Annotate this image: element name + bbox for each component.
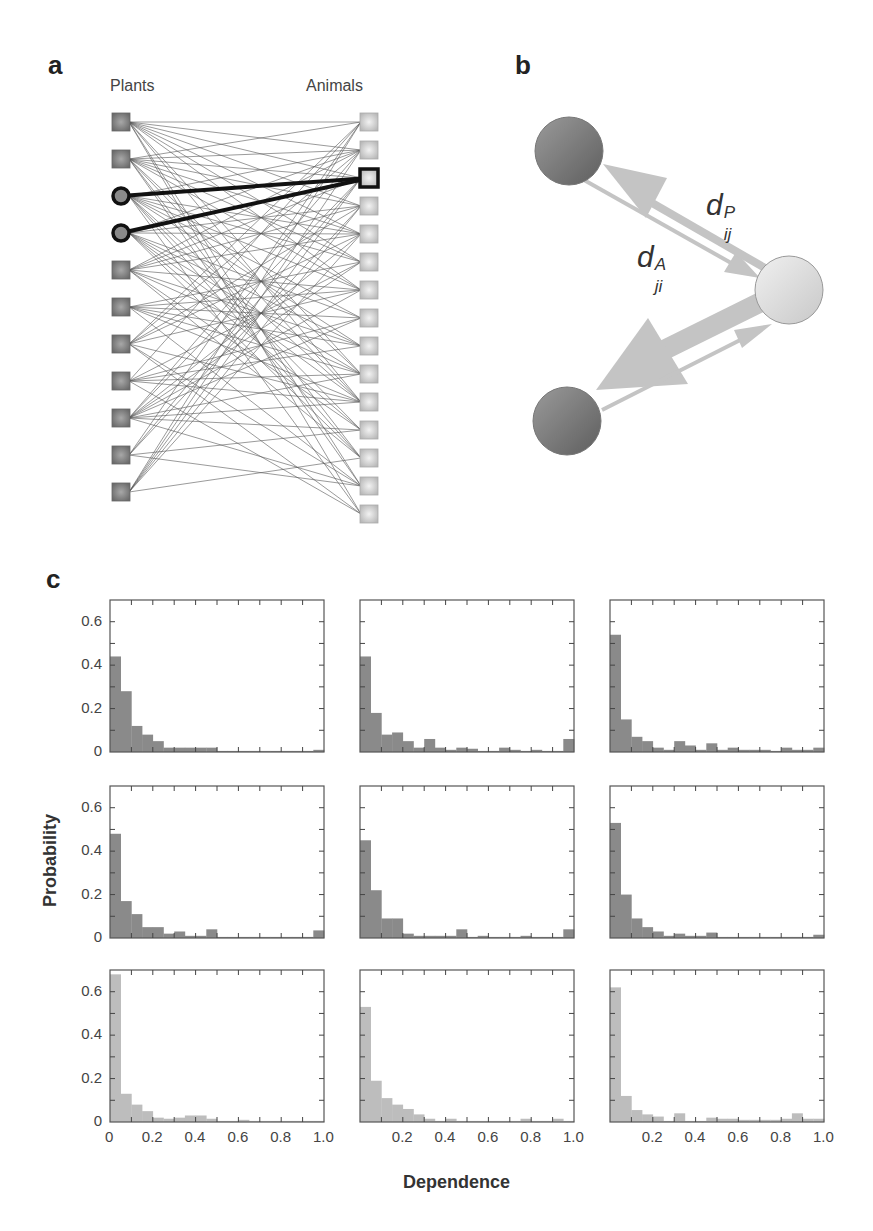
plant-node: [112, 335, 130, 353]
network-edge: [129, 122, 361, 486]
x-tick-label: 1.0: [313, 1128, 334, 1145]
histogram-bar: [164, 748, 175, 752]
network-edge: [129, 150, 361, 344]
histogram-bar: [131, 914, 142, 938]
x-tick-label: 0.8: [770, 1128, 791, 1145]
histogram-bar: [392, 732, 403, 752]
histogram-bar: [313, 930, 324, 938]
animal-node: [360, 393, 378, 411]
histogram-bar: [153, 741, 164, 752]
histogram-bar: [621, 895, 632, 938]
network-edge: [129, 206, 361, 270]
animal-node: [360, 197, 378, 215]
plant-node: [112, 409, 130, 427]
histogram-bar: [403, 934, 414, 938]
x-tick-label: 0.8: [270, 1128, 291, 1145]
plant-node: [112, 372, 130, 390]
y-tick-label: 0.2: [81, 1069, 102, 1086]
y-tick-label: 0.2: [81, 699, 102, 716]
histogram-bar: [414, 1114, 425, 1122]
arrow-thin-head: [734, 324, 772, 348]
plot-frame: [610, 970, 824, 1122]
x-tick-label: 0.4: [185, 1128, 206, 1145]
histogram-bar: [371, 1081, 382, 1122]
histogram-bar: [674, 934, 685, 938]
network-edge: [129, 318, 361, 418]
histogram-bar: [642, 1114, 653, 1122]
plant-node-highlighted: [113, 188, 129, 204]
network-edge: [129, 122, 361, 150]
y-tick-label: 0.4: [81, 1025, 102, 1042]
plant-node: [112, 150, 130, 168]
histogram-bar: [631, 1110, 642, 1122]
label-dA: d A ji: [637, 240, 666, 274]
network-edge: [129, 458, 361, 492]
histogram-bar: [685, 745, 696, 752]
y-tick-label: 0.4: [81, 841, 102, 858]
x-tick-label: 0.8: [520, 1128, 541, 1145]
histogram-bar: [653, 1117, 664, 1122]
plant-node: [112, 298, 130, 316]
histogram-bar: [174, 931, 185, 938]
histogram-bar: [674, 1113, 685, 1122]
histogram-row1-col2: [360, 600, 574, 752]
network-edge: [129, 430, 361, 455]
y-tick-label: 0.4: [81, 655, 102, 672]
network-edge: [129, 122, 361, 455]
histogram-bar: [392, 1105, 403, 1122]
network-edge: [129, 196, 361, 458]
y-tick-label: 0: [94, 928, 102, 945]
animal-node-highlighted: [360, 169, 378, 187]
histogram-bar: [110, 834, 121, 938]
histogram-bar: [142, 1111, 153, 1122]
x-tick-label: 0.4: [685, 1128, 706, 1145]
x-tick-label: 0.4: [435, 1128, 456, 1145]
animal-node: [360, 505, 378, 523]
histogram-bar: [653, 931, 664, 938]
network-edge: [129, 374, 361, 418]
histogram-bar: [563, 739, 574, 752]
histogram-bar: [371, 713, 382, 752]
y-tick-label: 0.6: [81, 982, 102, 999]
histogram-bar: [206, 748, 217, 752]
x-tick-label: 0.6: [727, 1128, 748, 1145]
plant-node-highlighted: [113, 225, 129, 241]
histogram-bar: [381, 918, 392, 938]
histogram-bar: [621, 1096, 632, 1122]
plant-node: [112, 446, 130, 464]
network-edge: [129, 344, 361, 514]
plot-frame: [610, 600, 824, 752]
animal-node: [360, 309, 378, 327]
network-edge: [129, 150, 361, 159]
histogram-bar: [153, 1118, 164, 1122]
histogram-bar: [642, 927, 653, 938]
network-edge: [129, 159, 361, 178]
histogram-row1-col1: [110, 600, 324, 752]
network-edge: [129, 122, 361, 159]
plant-node: [112, 261, 130, 279]
histogram-bar: [131, 1105, 142, 1122]
histogram-bar: [674, 741, 685, 752]
animal-node: [360, 477, 378, 495]
histogram-bar: [381, 735, 392, 752]
y-tick-label: 0.2: [81, 885, 102, 902]
histogram-row2-col1: [110, 786, 324, 938]
histogram-bar: [121, 691, 132, 752]
histogram-row1-col3: [610, 600, 824, 752]
x-tick-label: 1.0: [563, 1128, 584, 1145]
histogram-bar: [153, 927, 164, 938]
histogram-row3-col1: [110, 970, 324, 1122]
histogram-bar: [563, 929, 574, 938]
network-edge: [129, 455, 361, 486]
histogram-bar: [371, 890, 382, 938]
histogram-bar: [435, 748, 446, 752]
network-edge: [129, 402, 361, 418]
network-edge: [129, 206, 361, 492]
histogram-bar: [381, 1098, 392, 1122]
plot-frame: [610, 786, 824, 938]
x-tick-label: 0.6: [227, 1128, 248, 1145]
histogram-bar: [653, 748, 664, 752]
histogram-bar: [414, 748, 425, 752]
y-tick-label: 0.6: [81, 798, 102, 815]
histogram-bar: [142, 927, 153, 938]
